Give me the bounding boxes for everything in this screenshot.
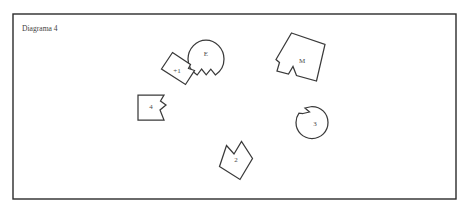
piece-plus1-label: +1	[173, 67, 181, 75]
piece-m-label: M	[299, 57, 306, 65]
diagram-canvas: Diagrama 4 E +1 M 4 3	[0, 0, 468, 215]
piece-2-label: 2	[234, 156, 238, 164]
piece-4-label: 4	[149, 103, 153, 111]
piece-4[interactable]: 4	[138, 95, 166, 120]
diagram-figure: Diagrama 4 E +1 M 4 3	[0, 0, 468, 215]
piece-3-label: 3	[313, 120, 317, 128]
diagram-title: Diagrama 4	[22, 24, 58, 33]
piece-e-label: E	[204, 50, 208, 58]
